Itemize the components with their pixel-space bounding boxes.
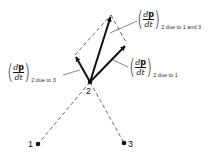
label-dpdt-due-to-1-and-3: ( dp dt ) 2 due to 1 and 3 [136,9,201,30]
right-paren: ) [154,9,160,30]
fraction: dp dt [143,11,154,29]
subscript-text: 2 due to 1 and 3 [161,24,201,30]
vector-due-to-3 [76,57,90,82]
fraction-denominator: dt [144,20,152,29]
right-paren: ) [24,62,30,83]
leader-line-right [113,60,128,67]
subscript-text: 2 due to 3 [31,77,55,83]
fraction-numerator: dp [135,59,146,69]
fraction-numerator: dp [143,11,154,21]
right-paren: ) [146,57,152,78]
fraction: dp dt [135,59,146,77]
fraction-wrapper: ( dp dt ) [128,57,153,78]
point-2-dot [88,80,93,85]
point-1-label: 1 [28,140,33,149]
dashed-line-2-to-1 [38,82,90,144]
fraction-wrapper: ( dp dt ) [136,9,161,30]
label-dpdt-due-to-3: ( dp dt ) 2 due to 3 [6,62,56,83]
left-paren: ( [7,62,13,83]
leader-line-left [63,70,80,75]
left-paren: ( [129,57,135,78]
point-3-label: 3 [128,140,133,149]
point-3-dot [122,141,127,146]
left-paren: ( [137,9,143,30]
point-1-dot [36,142,41,147]
point-2-label: 2 [86,87,91,96]
fraction-denominator: dt [14,73,22,82]
label-dpdt-due-to-1: ( dp dt ) 2 due to 1 [128,57,178,78]
subscript-text: 2 due to 1 [153,72,177,78]
fraction-denominator: dt [136,68,144,77]
fraction-numerator: dp [13,64,24,74]
fraction-wrapper: ( dp dt ) [6,62,31,83]
leader-line-top [110,21,137,33]
fraction: dp dt [13,64,24,82]
parallelogram-side-right [111,15,127,44]
dashed-line-2-to-3 [90,82,124,143]
